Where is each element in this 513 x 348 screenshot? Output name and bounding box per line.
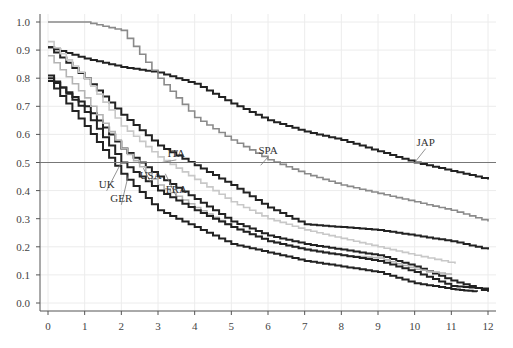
- y-tick-label: 0.3: [16, 213, 30, 225]
- label-spa: SPA: [258, 144, 277, 156]
- x-tick-label: 3: [155, 320, 161, 332]
- label-fra: FRA: [166, 183, 187, 195]
- x-tick-label: 11: [446, 320, 457, 332]
- label-ita: ITA: [168, 147, 186, 159]
- x-tick-label: 8: [339, 320, 345, 332]
- y-tick-label: 0.5: [16, 157, 30, 169]
- x-tick-label: 0: [45, 320, 51, 332]
- y-tick-label: 0.4: [16, 185, 30, 197]
- y-tick-label: 0.2: [16, 241, 30, 253]
- label-usa: USA: [140, 169, 162, 181]
- y-tick-label: 0.1: [16, 269, 30, 281]
- x-tick-label: 4: [192, 320, 198, 332]
- y-tick-label: 1.0: [16, 16, 30, 28]
- y-tick-label: 0.9: [16, 44, 30, 56]
- y-tick-label: 0.6: [16, 128, 30, 140]
- y-tick-label: 0.0: [16, 297, 30, 309]
- x-tick-label: 9: [375, 320, 381, 332]
- x-tick-label: 2: [119, 320, 125, 332]
- label-jap: JAP: [416, 136, 434, 148]
- x-tick-label: 7: [302, 320, 308, 332]
- x-tick-label: 1: [82, 320, 88, 332]
- x-tick-label: 5: [229, 320, 235, 332]
- label-ger: GER: [110, 192, 133, 204]
- series-line-unlabeled: [48, 56, 451, 275]
- y-tick-label: 0.7: [16, 100, 30, 112]
- survival-chart: 0.00.10.20.30.40.50.60.70.80.91.00123456…: [0, 0, 513, 348]
- x-tick-label: 12: [483, 320, 494, 332]
- y-tick-label: 0.8: [16, 72, 30, 84]
- label-uk: UK: [99, 178, 115, 190]
- x-tick-label: 6: [265, 320, 271, 332]
- x-tick-label: 10: [409, 320, 421, 332]
